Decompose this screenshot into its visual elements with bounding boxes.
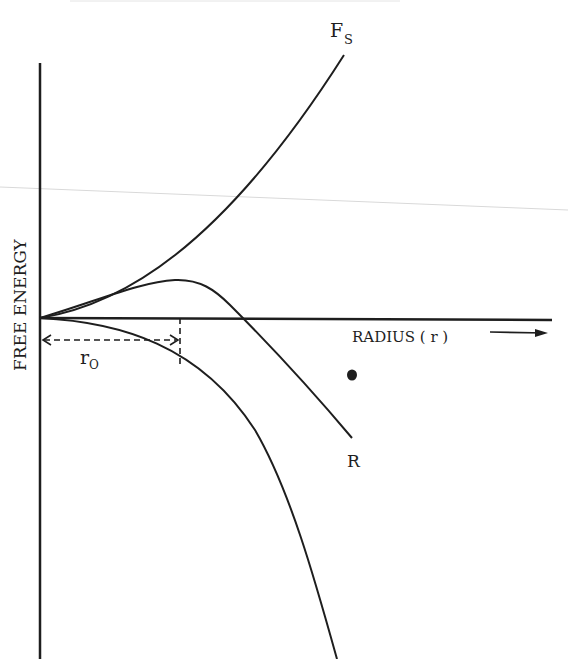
- x-axis-label: RADIUS ( r ): [352, 328, 448, 346]
- radius-arrowhead-icon: [535, 329, 548, 337]
- total-curve-label: R: [347, 451, 361, 471]
- scan-artifact-line: [0, 187, 568, 210]
- surface-curve-label: F: [330, 19, 343, 41]
- surface-curve-label-subscript: S: [344, 32, 353, 47]
- y-axis-label: FREE ENERGY: [10, 238, 30, 371]
- free-energy-diagram: FREE ENERGY RADIUS ( r ) F S R r O: [0, 0, 568, 659]
- x-axis: [40, 318, 552, 320]
- ink-dot: [347, 370, 357, 381]
- critical-radius-label-subscript: O: [89, 358, 99, 372]
- surface-energy-curve: [40, 55, 344, 318]
